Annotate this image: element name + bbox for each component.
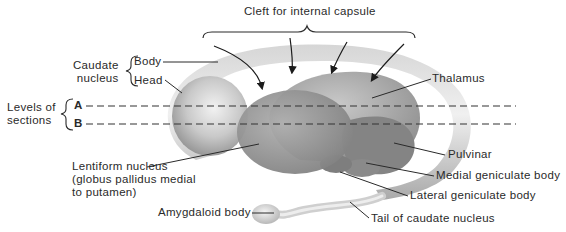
medial-geniculate-label: Medial geniculate body xyxy=(436,169,560,182)
caudate-body-label: Body xyxy=(134,55,161,68)
level-b-label: B xyxy=(74,117,83,130)
caudate-head-label: Head xyxy=(134,74,163,87)
thalamus-label: Thalamus xyxy=(432,72,485,85)
pulvinar-label: Pulvinar xyxy=(448,148,492,161)
caudate-nucleus-label: Caudate nucleus xyxy=(73,59,119,85)
amygdaloid-body-shape xyxy=(252,204,280,224)
amygdaloid-body-label: Amygdaloid body xyxy=(158,206,251,219)
levels-of-sections-label: Levels of sections xyxy=(7,101,56,127)
lentiform-nucleus-label: Lentiform nucleus (globus pallidus media… xyxy=(72,160,196,199)
cleft-title: Cleft for internal capsule xyxy=(244,5,376,18)
tail-of-caudate-label: Tail of caudate nucleus xyxy=(371,212,495,225)
lentiform-nucleus-shape xyxy=(237,90,353,174)
levels-brace xyxy=(61,99,73,130)
lateral-geniculate-label: Lateral geniculate body xyxy=(410,189,536,202)
diagram-canvas: Cleft for internal capsule Caudate nucle… xyxy=(0,0,566,232)
level-a-label: A xyxy=(74,99,83,112)
cleft-bracket xyxy=(203,26,415,38)
